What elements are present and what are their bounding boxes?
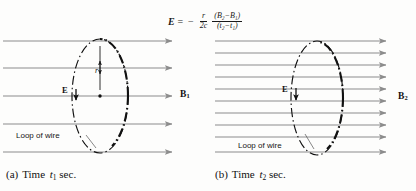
panel-b-field-lines — [215, 41, 386, 152]
caption-b-unit: sec. — [269, 168, 286, 180]
panel-a-loop-leader-line — [86, 135, 96, 148]
equation-minus-sign: − — [188, 16, 194, 27]
panel-a-loop-caption: Loop of wire — [16, 131, 60, 140]
caption-panel-a: (a)Time t1 sec. — [6, 168, 76, 182]
panel-a-time-t1: E r B1 Loop of wire — [0, 36, 200, 158]
loop-ellipse-highlight-lower — [112, 96, 128, 146]
caption-b-word: Time — [232, 168, 255, 180]
equation-frac2-denominator: (t₂−t₁) — [215, 22, 240, 31]
physics-figure: E = − r 2c (B₂−B₁) (t₂−t₁) — [0, 0, 416, 191]
equation-lhs: E — [168, 16, 175, 27]
panel-a-field-label-sub: 1 — [187, 92, 190, 99]
caption-a-word: Time — [22, 168, 45, 180]
panel-b-loop-leader-line — [305, 134, 314, 149]
panel-b-time-t2: E B2 Loop of wire — [213, 36, 416, 158]
panel-a-radius-label: r — [95, 66, 98, 75]
panel-b-wire-loop — [291, 41, 343, 155]
equation-fraction-r-over-2c: r 2c — [198, 12, 210, 31]
equation-frac1-denominator: 2c — [198, 22, 210, 31]
caption-a-unit: sec. — [59, 168, 76, 180]
caption-b-sub: 2 — [262, 173, 266, 182]
panel-b-field-label-sub: 2 — [405, 94, 408, 101]
loop-center-dot — [98, 94, 101, 97]
panel-b-field-label: B2 — [398, 91, 408, 101]
equation-fraction-deltaB-over-deltat: (B₂−B₁) (t₂−t₁) — [212, 12, 242, 31]
panel-a-e-label: E — [62, 85, 68, 95]
caption-b-tag: (b) — [215, 168, 228, 180]
panel-b-drawing — [213, 36, 416, 158]
caption-a-sub: 1 — [53, 173, 57, 182]
caption-panel-b: (b)Time t2 sec. — [215, 168, 286, 182]
panel-b-loop-caption: Loop of wire — [238, 141, 282, 150]
caption-a-tag: (a) — [6, 168, 18, 180]
induced-field-equation: E = − r 2c (B₂−B₁) (t₂−t₁) — [168, 8, 288, 34]
panel-b-e-label: E — [282, 84, 288, 94]
panel-a-field-label: B1 — [180, 89, 190, 99]
equation-equals-sign: = — [177, 16, 183, 27]
loop-ellipse-highlight-lower — [327, 98, 343, 149]
